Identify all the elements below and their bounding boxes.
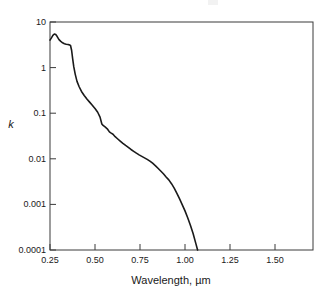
x-axis-title: Wavelength, µm	[96, 274, 246, 286]
y-tick-label-0.01: 0.01	[16, 155, 46, 164]
x-tick-label-1.00: 1.00	[167, 256, 203, 265]
x-tick-label-0.75: 0.75	[122, 256, 158, 265]
x-tick-label-0.25: 0.25	[32, 256, 68, 265]
y-tick-label-0.0001: 0.0001	[10, 246, 46, 255]
x-tick-label-1.25: 1.25	[212, 256, 248, 265]
y-tick-label-0.001: 0.001	[14, 200, 46, 209]
chart-plot-area	[0, 0, 328, 297]
y-tick-label-1: 1	[16, 64, 46, 73]
plot-frame	[50, 22, 313, 250]
y-axis-title: k	[4, 118, 18, 130]
x-tick-label-1.50: 1.50	[257, 256, 293, 265]
y-tick-label-10: 10	[16, 18, 46, 27]
x-tick-label-0.50: 0.50	[77, 256, 113, 265]
y-tick-label-0.1: 0.1	[16, 109, 46, 118]
figure-container: 10 1 0.1 0.01 0.001 0.0001 0.25 0.50 0.7…	[0, 0, 328, 297]
